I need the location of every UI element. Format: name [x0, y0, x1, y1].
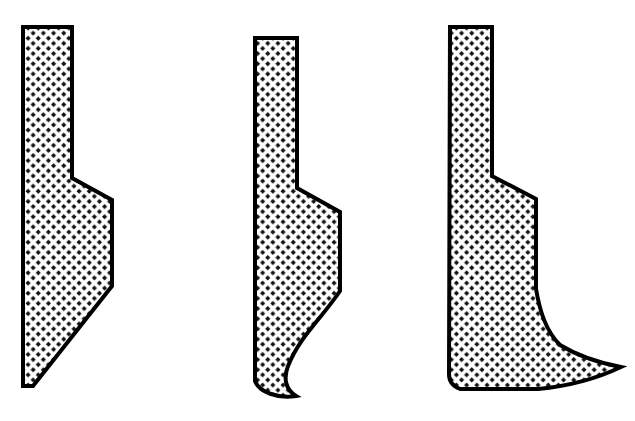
- figure-svg: [0, 0, 635, 421]
- figure-canvas: [0, 0, 635, 421]
